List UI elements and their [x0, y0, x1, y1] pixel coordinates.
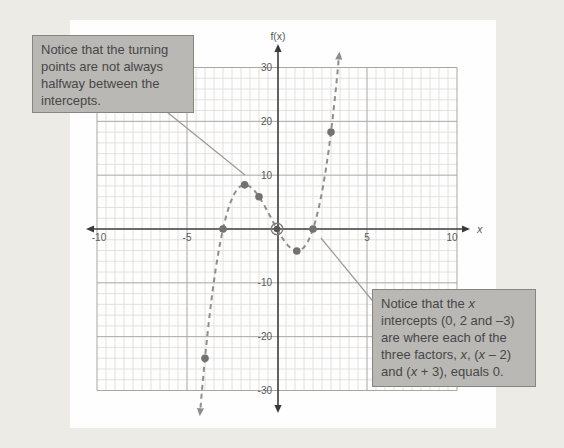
- callout-line: halfway between the: [41, 75, 185, 92]
- x-axis-title: x: [476, 223, 483, 235]
- callout-line: and (x + 3), equals 0.: [381, 363, 527, 380]
- callout-turning-points: Notice that the turningpoints are not al…: [32, 35, 194, 113]
- curve-point: [309, 225, 317, 233]
- arrowhead: [274, 405, 281, 413]
- x-tick-label: 5: [364, 232, 370, 243]
- arrowhead: [197, 408, 204, 416]
- y-tick-label: -10: [258, 277, 273, 288]
- leader-line-x-intercepts: [321, 238, 376, 305]
- curve-point: [201, 354, 209, 362]
- callout-line: intercepts.: [41, 92, 185, 109]
- figure: -10-5510302010-10-20-30f(x)x Notice that…: [0, 0, 564, 448]
- y-tick-label: 30: [261, 62, 273, 73]
- callout-line: are where each of the: [381, 329, 527, 346]
- arrowhead: [335, 52, 342, 60]
- curve-point: [241, 181, 249, 189]
- origin-point: [274, 226, 280, 232]
- function-curve: [201, 59, 339, 408]
- y-tick-label: -20: [258, 331, 273, 342]
- x-tick-label: -10: [92, 232, 107, 243]
- callout-line: intercepts (0, 2 and –3): [381, 312, 527, 329]
- callout-x-intercepts: Notice that the xintercepts (0, 2 and –3…: [372, 289, 536, 387]
- y-tick-label: 20: [261, 116, 273, 127]
- arrowhead: [274, 44, 281, 52]
- x-tick-label: 10: [446, 232, 458, 243]
- y-tick-label: 10: [261, 170, 273, 181]
- callout-line: points are not always: [41, 58, 185, 75]
- callout-line: three factors, x, (x – 2): [381, 346, 527, 363]
- y-axis-title: f(x): [270, 30, 285, 42]
- curve-point: [219, 225, 227, 233]
- callout-line: Notice that the x: [381, 295, 527, 312]
- curve-point: [327, 128, 335, 136]
- callout-line: Notice that the turning: [41, 41, 185, 58]
- x-tick-label: -5: [183, 232, 192, 243]
- arrowhead: [462, 225, 470, 232]
- y-tick-label: -30: [258, 385, 273, 396]
- curve-point: [255, 193, 263, 201]
- curve-point: [293, 247, 301, 255]
